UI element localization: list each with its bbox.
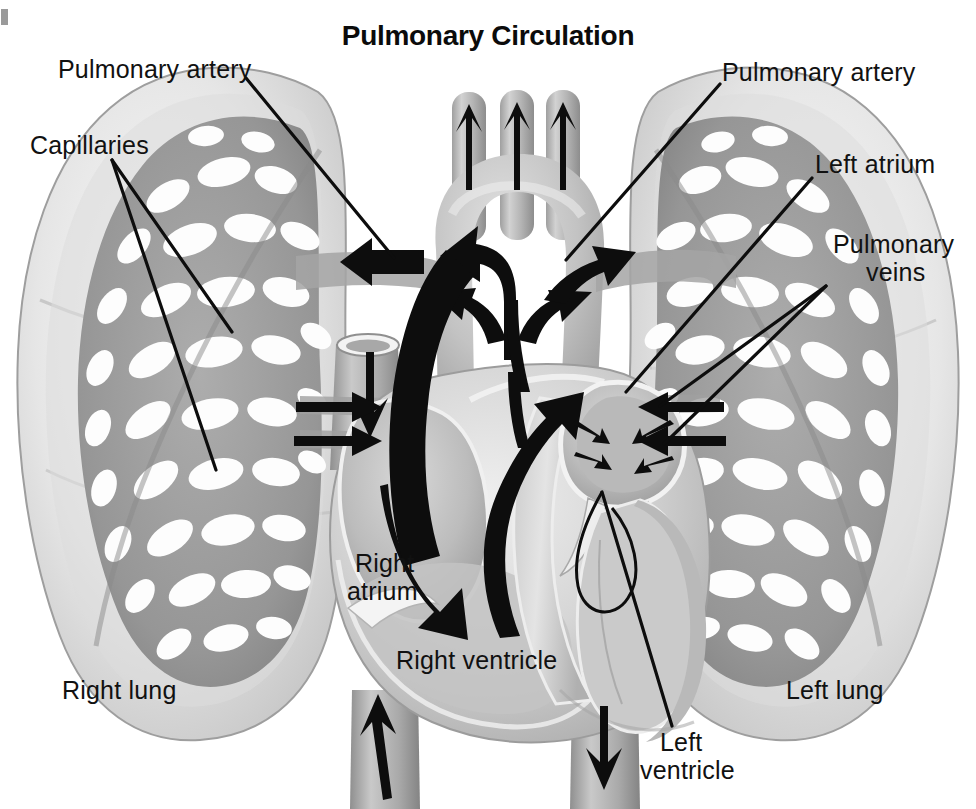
label-capillaries: Capillaries xyxy=(30,131,149,159)
figure-title: Pulmonary Circulation xyxy=(0,20,976,52)
label-right-ventricle: Right ventricle xyxy=(396,646,557,674)
figure-canvas: Pulmonary Circulation Pulmonary artery C… xyxy=(0,0,976,809)
label-right-lung: Right lung xyxy=(62,676,177,704)
label-right-atrium-line2: atrium xyxy=(347,577,418,605)
label-pulmonary-artery-right: Pulmonary artery xyxy=(722,58,916,86)
label-left-atrium: Left atrium xyxy=(815,150,935,178)
label-pulmonary-veins-line1: Pulmonary xyxy=(833,230,954,258)
label-left-ventricle-line1: Left xyxy=(660,728,703,756)
label-pulmonary-veins-line2: veins xyxy=(866,258,925,286)
label-left-lung: Left lung xyxy=(786,676,884,704)
label-right-atrium-line1: Right xyxy=(355,549,414,577)
svc-lumen xyxy=(346,340,390,353)
label-left-ventricle-line2: ventricle xyxy=(640,756,735,784)
label-pulmonary-artery-left: Pulmonary artery xyxy=(58,55,252,83)
